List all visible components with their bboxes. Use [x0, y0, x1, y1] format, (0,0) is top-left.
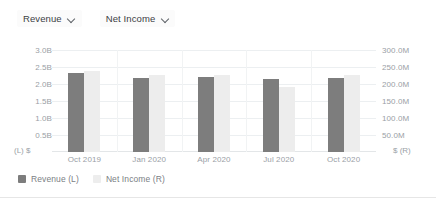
x-axis-label-oct-2019: Oct 2019 — [52, 155, 117, 164]
legend-label-net-income: Net Income (R) — [106, 174, 165, 184]
bar-group-jul-2020 — [246, 50, 311, 152]
x-axis-label-oct-2020: Oct 2020 — [311, 155, 376, 164]
legend-item-net-income[interactable]: Net Income (R) — [93, 174, 165, 184]
bar-net-income[interactable] — [214, 75, 230, 152]
y-axis-left-tick-3.0B: 3.0B — [35, 46, 52, 55]
y-axis-left-tick-1.0B: 1.0B — [35, 114, 52, 123]
plot-area — [52, 50, 376, 152]
metric-selector-revenue-label: Revenue — [23, 13, 62, 24]
bar-net-income[interactable] — [149, 75, 165, 152]
metric-selector-net-income-label: Net Income — [106, 13, 156, 24]
y-axis-right-tick-250M: 250.0M — [382, 63, 409, 72]
x-axis-label-jul-2020: Jul 2020 — [246, 155, 311, 164]
bar-revenue[interactable] — [133, 78, 149, 152]
y-axis-right-tick-200M: 200.0M — [382, 80, 409, 89]
financial-bar-chart-widget: Revenue Net Income 3.0B 2.5B 2.0B 1.5B 1… — [0, 0, 436, 198]
y-axis-right-tick-50M: 50.0M — [382, 131, 405, 140]
bar-group-oct-2020 — [311, 50, 376, 152]
bar-revenue[interactable] — [198, 77, 214, 153]
legend-item-revenue[interactable]: Revenue (L) — [18, 174, 79, 184]
bar-group-jan-2020 — [117, 50, 182, 152]
legend-swatch-icon — [93, 175, 101, 183]
x-axis-label-apr-2020: Apr 2020 — [182, 155, 247, 164]
bar-net-income[interactable] — [344, 75, 360, 152]
x-axis-label-jan-2020: Jan 2020 — [117, 155, 182, 164]
x-axis-category-row: Oct 2019 Jan 2020 Apr 2020 Jul 2020 Oct … — [52, 155, 376, 164]
y-axis-right-tick-150M: 150.0M — [382, 97, 409, 106]
y-axis-left-tick-2.0B: 2.0B — [35, 80, 52, 89]
y-axis-right-unit: $ (R) — [393, 146, 411, 155]
bar-groups — [52, 50, 376, 152]
bar-group-apr-2020 — [182, 50, 247, 152]
metric-selector-net-income[interactable]: Net Income — [100, 10, 176, 27]
bar-net-income[interactable] — [279, 87, 295, 152]
chevron-down-icon — [161, 15, 169, 23]
bar-revenue[interactable] — [328, 78, 344, 152]
y-axis-right-tick-100M: 100.0M — [382, 114, 409, 123]
metric-selector-row: Revenue Net Income — [17, 10, 175, 27]
bar-group-oct-2019 — [52, 50, 117, 152]
chevron-down-icon — [68, 15, 76, 23]
bar-revenue[interactable] — [263, 79, 279, 152]
chart-legend: Revenue (L) Net Income (R) — [18, 174, 165, 184]
y-axis-left-tick-0.5B: 0.5B — [35, 131, 52, 140]
legend-swatch-icon — [18, 175, 26, 183]
metric-selector-revenue[interactable]: Revenue — [17, 10, 82, 27]
bar-revenue[interactable] — [68, 73, 84, 152]
legend-label-revenue: Revenue (L) — [31, 174, 79, 184]
y-axis-right-tick-300M: 300.0M — [382, 46, 409, 55]
y-axis-left-unit: (L) $ — [14, 146, 30, 155]
y-axis-left-tick-1.5B: 1.5B — [35, 97, 52, 106]
y-axis-left-tick-2.5B: 2.5B — [35, 63, 52, 72]
bar-net-income[interactable] — [84, 71, 100, 152]
